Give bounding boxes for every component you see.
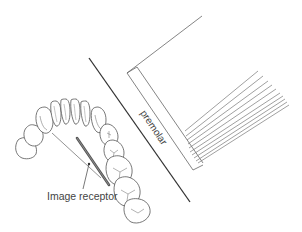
tooth-incisor-3: [71, 99, 80, 124]
leader-dot: [88, 163, 90, 165]
label-leader-line: [83, 164, 89, 189]
receptor-holder-block: [127, 16, 203, 170]
dental-radiograph-diagram: Image receptor premolar: [0, 0, 302, 232]
tooth-incisor-4: [81, 101, 90, 126]
x-ray-beam-ray: [52, 133, 101, 178]
tooth-molar-right-3: [124, 199, 150, 223]
premolar-label: premolar: [138, 108, 170, 147]
image-receptor-label: Image receptor: [47, 190, 118, 202]
parallel-lines: [185, 71, 289, 163]
